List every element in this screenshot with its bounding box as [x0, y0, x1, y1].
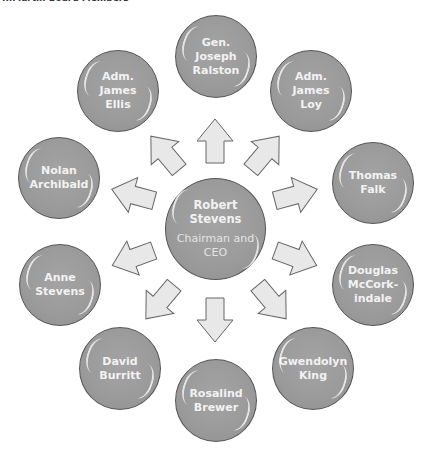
- member-node-ralston: Gen. Joseph Ralston: [175, 15, 257, 98]
- member-name-line: Rosalind: [189, 387, 242, 401]
- member-node-king: Gwendolyn King: [272, 327, 354, 410]
- member-name-line: Adm.: [295, 70, 327, 84]
- center-node-ceo: Robert Stevens Chairman and CEO: [165, 178, 266, 280]
- member-node-falk: Thomas Falk: [332, 142, 414, 224]
- ceo-name-line2: Stevens: [190, 212, 242, 226]
- member-name-line: Falk: [360, 183, 385, 197]
- member-name-line: indale: [354, 292, 392, 306]
- arrow-left-up-icon: [107, 172, 159, 218]
- arrow-up-icon: [197, 119, 233, 163]
- arrow-down-right-icon: [244, 274, 300, 331]
- member-name-line: Douglas: [348, 264, 398, 278]
- arrow-down-left-icon: [132, 274, 188, 331]
- member-name-line: Nolan: [41, 164, 77, 178]
- member-name-line: Adm.: [102, 70, 134, 84]
- arrow-right-up-icon: [270, 172, 322, 218]
- member-node-loy: Adm. James Loy: [270, 50, 352, 132]
- member-name-line: Gen.: [202, 36, 231, 50]
- member-name-line: Ellis: [105, 98, 130, 112]
- member-name-line: Joseph: [195, 50, 236, 64]
- arrow-up-right-icon: [237, 125, 293, 182]
- member-name-line: James: [293, 84, 330, 98]
- arrow-left-down-icon: [106, 234, 160, 283]
- member-node-burritt: David Burritt: [79, 327, 161, 410]
- member-node-ellis: Adm. James Ellis: [77, 50, 159, 132]
- member-name-line: Archibald: [29, 178, 88, 192]
- arrow-right-down-icon: [269, 234, 323, 283]
- member-node-archibald: Nolan Archibald: [18, 137, 100, 219]
- member-name-line: David: [102, 355, 137, 369]
- member-name-line: Loy: [300, 98, 322, 112]
- member-name-line: Anne: [44, 271, 76, 285]
- member-name-line: McCork-: [348, 278, 398, 292]
- member-node-brewer: Rosalind Brewer: [175, 359, 257, 442]
- member-name-line: King: [299, 369, 327, 383]
- ceo-name-line1: Robert: [194, 198, 238, 212]
- member-name-line: Brewer: [194, 401, 238, 415]
- ceo-role: Chairman and CEO: [166, 232, 265, 260]
- arrow-down-icon: [197, 298, 233, 342]
- member-node-anne-stevens: Anne Stevens: [19, 244, 101, 326]
- member-name-line: Ralston: [193, 64, 240, 78]
- member-name-line: Burritt: [99, 369, 140, 383]
- member-name-line: Gwendolyn: [279, 355, 348, 369]
- member-node-mccorkindale: Douglas McCork- indale: [332, 244, 414, 326]
- member-name-line: James: [100, 84, 137, 98]
- member-name-line: Stevens: [35, 285, 85, 299]
- member-name-line: Thomas: [349, 169, 397, 183]
- arrow-up-left-icon: [137, 125, 193, 182]
